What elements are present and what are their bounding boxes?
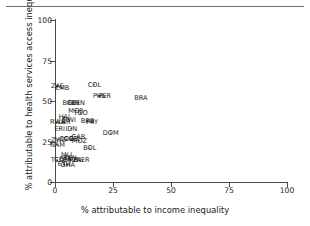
- data-point-label: BRA: [134, 94, 147, 102]
- data-point-label: ERI: [54, 125, 64, 133]
- x-tick-label: 0: [53, 186, 58, 195]
- data-point-label: PER: [99, 92, 111, 100]
- data-point-label: COL: [88, 81, 101, 89]
- data-point-label: BOL: [83, 144, 96, 152]
- x-tick-label: 75: [224, 186, 234, 195]
- x-tick-label: 100: [280, 186, 295, 195]
- x-axis-title: % attributable to income inequality: [81, 205, 229, 215]
- x-tick-label: 25: [108, 186, 118, 195]
- figure-cropped-header-text: [60, 0, 240, 5]
- figure-top-rule: [6, 6, 304, 7]
- x-tick-label: 50: [166, 186, 176, 195]
- y-tick-label: 50: [42, 97, 52, 106]
- data-point-label: NAM: [50, 141, 65, 149]
- data-point-label: ZMB: [55, 84, 69, 92]
- data-point-label: IDN: [65, 125, 77, 133]
- data-point-label: GHA: [61, 161, 75, 169]
- data-point-label: PRY: [86, 118, 98, 126]
- y-axis-title: % attributable to health services access…: [24, 21, 35, 191]
- y-tick-label: 0: [47, 178, 52, 187]
- scatter-plot-figure: 02550751000255075100 ZAFZMBCOLPHLPERBRAB…: [0, 0, 310, 226]
- data-point-label: BEN: [72, 99, 85, 107]
- y-tick-label: 75: [42, 56, 52, 65]
- data-point-label: DOM: [103, 129, 119, 137]
- data-point-label: NER: [76, 156, 89, 164]
- y-tick-label: 100: [38, 16, 53, 25]
